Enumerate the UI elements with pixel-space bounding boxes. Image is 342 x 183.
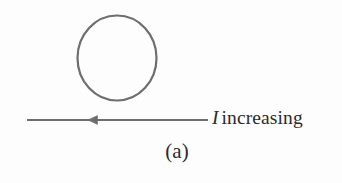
conducting-loop-icon [78, 16, 157, 101]
current-direction-arrow-icon [88, 116, 98, 125]
current-increasing-label: Iincreasing [212, 107, 303, 129]
current-state-text: increasing [222, 107, 303, 128]
current-symbol: I [212, 107, 222, 128]
figure-container: Iincreasing (a) [0, 0, 342, 183]
panel-label: (a) [0, 139, 342, 163]
